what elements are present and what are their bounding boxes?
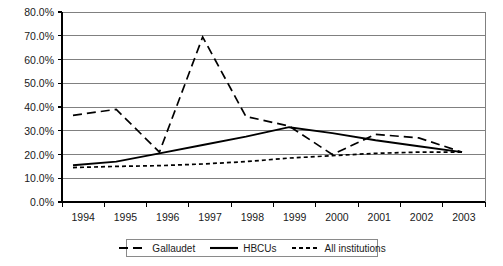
x-axis-tick-label: 1999 xyxy=(274,212,316,223)
x-axis-tick-label: 1994 xyxy=(62,212,104,223)
legend-label: Gallaudet xyxy=(152,243,195,254)
series-line-hbcus xyxy=(73,127,462,165)
legend-item-all-institutions: All institutions xyxy=(291,243,386,254)
x-axis-tick-label: 2000 xyxy=(316,212,358,223)
y-axis-tick-label: 60.0% xyxy=(4,55,54,66)
x-axis-tick-label: 1995 xyxy=(104,212,146,223)
legend-swatch-long-dash-icon xyxy=(118,243,148,253)
legend-swatch-solid-icon xyxy=(209,243,239,253)
y-axis-tick-label: 80.0% xyxy=(4,7,54,18)
y-axis-tick-label: 70.0% xyxy=(4,31,54,42)
y-axis-tick-label: 50.0% xyxy=(4,78,54,89)
x-axis-tick-label: 1997 xyxy=(189,212,231,223)
y-axis-tick-label: 10.0% xyxy=(4,173,54,184)
chart-plot-area xyxy=(0,0,503,266)
x-axis-tick-label: 1998 xyxy=(231,212,273,223)
line-chart: 0.0%10.0%20.0%30.0%40.0%50.0%60.0%70.0%8… xyxy=(0,0,503,266)
data-series xyxy=(73,37,462,168)
y-axis-tick-label: 30.0% xyxy=(4,126,54,137)
x-axis-tick-label: 2001 xyxy=(358,212,400,223)
legend-item-hbcus: HBCUs xyxy=(209,243,276,254)
gridlines xyxy=(62,12,485,202)
x-axis-tick-label: 1996 xyxy=(147,212,189,223)
legend-label: HBCUs xyxy=(243,243,276,254)
x-axis-tick-label: 2003 xyxy=(443,212,485,223)
y-axis-tick-label: 0.0% xyxy=(4,197,54,208)
legend-label: All institutions xyxy=(325,243,386,254)
y-axis-tick-label: 20.0% xyxy=(4,150,54,161)
chart-legend: GallaudetHBCUsAll institutions xyxy=(126,239,378,257)
legend-item-gallaudet: Gallaudet xyxy=(118,243,195,254)
series-line-gallaudet xyxy=(73,37,462,155)
y-axis-tick-label: 40.0% xyxy=(4,102,54,113)
legend-swatch-short-dash-icon xyxy=(291,243,321,253)
x-axis-tick-label: 2002 xyxy=(400,212,442,223)
